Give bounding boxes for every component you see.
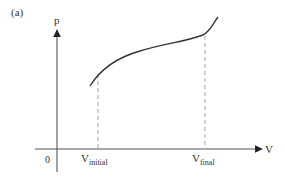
v-final-base: V	[192, 152, 200, 164]
origin-label: 0	[45, 154, 50, 165]
pv-diagram: (a) p V 0 Vinitial Vfinal	[0, 0, 284, 184]
v-final-label: Vfinal	[192, 152, 215, 167]
v-initial-sub: initial	[89, 158, 108, 167]
process-curve	[90, 17, 218, 86]
y-axis-label: p	[54, 14, 60, 26]
v-initial-base: V	[81, 152, 89, 164]
panel-label: (a)	[11, 6, 24, 19]
x-axis-label: V	[265, 143, 273, 155]
v-final-sub: final	[200, 158, 215, 167]
v-initial-label: Vinitial	[81, 152, 108, 167]
